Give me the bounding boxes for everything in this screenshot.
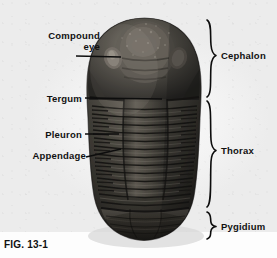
label-compound-eye-line2: eye <box>0 41 100 52</box>
label-cephalon: Cephalon <box>221 50 266 61</box>
figure-caption: FIG. 13-1 <box>4 239 48 250</box>
right-compound-eye <box>166 45 189 71</box>
pleural-tips-right <box>179 110 197 191</box>
figure-root: Compound eye Tergum Pleuron Appendage Ce… <box>0 0 277 258</box>
label-pleuron: Pleuron <box>0 129 82 140</box>
label-compound-eye: Compound eye <box>0 30 100 52</box>
label-compound-eye-line1: Compound <box>0 30 100 41</box>
label-pygidium: Pygidium <box>221 221 265 232</box>
left-compound-eye <box>101 45 124 71</box>
trilobite-outline <box>87 18 201 240</box>
label-tergum: Tergum <box>0 93 82 104</box>
axial-lobe <box>123 99 168 198</box>
thoracic-segments <box>92 99 197 206</box>
pleural-tips-left <box>92 110 114 191</box>
label-thorax: Thorax <box>221 145 254 156</box>
specimen-shadow <box>88 224 204 248</box>
label-appendage: Appendage <box>0 150 86 161</box>
pygidium-region <box>101 208 189 240</box>
cephalon-region <box>88 17 200 101</box>
